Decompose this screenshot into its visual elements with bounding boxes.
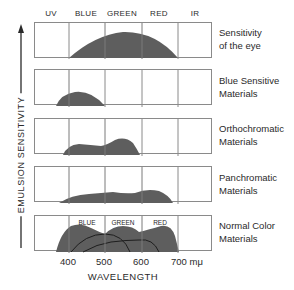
panel-eye-sensitivity <box>34 22 212 58</box>
y-axis-title: EMULSION SENSITIVITY <box>16 94 26 217</box>
column-label-uv: UV <box>45 9 57 18</box>
inner-label-blue: BLUE <box>79 219 96 226</box>
x-tick-600: 600 <box>133 256 149 267</box>
column-label-green: GREEN <box>107 9 137 18</box>
inner-label-green: GREEN <box>111 219 134 226</box>
panel-label-blue-sensitive: Blue Sensitive Materials <box>219 74 279 100</box>
x-tick-500: 500 <box>96 256 112 267</box>
column-label-red: RED <box>150 9 168 18</box>
panel-label-panchromatic: Panchromatic Materials <box>219 171 277 197</box>
panel-label-normal-color: Normal Color Materials <box>219 219 275 245</box>
inner-label-red: RED <box>153 219 167 226</box>
orthochromatic-curve <box>35 119 213 156</box>
panchromatic-curve <box>35 167 213 204</box>
panel-orthochromatic <box>34 118 212 154</box>
panel-blue-sensitive <box>34 69 212 105</box>
x-axis-title: WAVELENGTH <box>88 271 158 282</box>
panel-panchromatic <box>34 166 212 202</box>
panel-label-orthochromatic: Orthochromatic Materials <box>219 122 284 148</box>
panel-normal-color: BLUE GREEN RED <box>34 215 212 251</box>
column-label-ir: IR <box>191 9 200 18</box>
blue-sensitive-curve <box>35 70 213 107</box>
panel-label-eye: Sensitivity of the eye <box>219 26 262 52</box>
x-tick-700: 700 mμ <box>171 256 203 267</box>
eye-sensitivity-curve <box>35 23 213 59</box>
x-tick-400: 400 <box>60 256 76 267</box>
column-label-blue: BLUE <box>75 9 97 18</box>
